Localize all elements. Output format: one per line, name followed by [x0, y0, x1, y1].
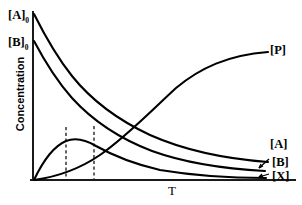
- chart-canvas: [0, 0, 302, 205]
- label-A-initial-base: [A]: [8, 8, 25, 22]
- label-curve-A: [A]: [270, 138, 287, 151]
- label-A-initial-subscript: 0: [25, 16, 29, 25]
- leader-arrowhead-X: [259, 174, 263, 177]
- kinetics-concentration-plot: [A]0 [B]0 [P] [A] [B] [X] T Concentratio…: [0, 0, 302, 205]
- x-axis-label: T: [168, 184, 176, 197]
- curve-series-B: [34, 41, 265, 171]
- label-A-initial: [A]0: [8, 9, 29, 24]
- label-curve-B: [B]: [272, 156, 289, 169]
- label-B-initial-base: [B]: [8, 35, 25, 49]
- label-curve-X: [X]: [272, 170, 289, 183]
- curve-series-X: [34, 139, 266, 180]
- label-curve-P: [P]: [270, 44, 286, 57]
- y-axis-label: Concentration: [14, 48, 26, 140]
